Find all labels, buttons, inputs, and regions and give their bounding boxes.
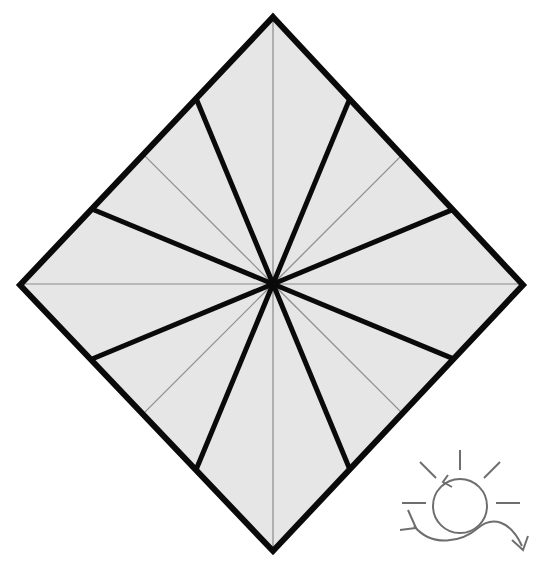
sun-ray-upper-left: [420, 462, 436, 478]
figure-canvas: Rotated square (diamond) subdivided into…: [0, 0, 536, 569]
s-curve-path: [414, 522, 522, 546]
rotation-sun-icon: [392, 448, 532, 558]
sun-ray-upper-right: [484, 462, 500, 478]
circle-with-counterclockwise-arrow: [433, 475, 487, 533]
s-curve-double-arrow: [400, 510, 528, 550]
icon-circle: [433, 479, 487, 533]
sun-rays-group: [402, 450, 520, 503]
